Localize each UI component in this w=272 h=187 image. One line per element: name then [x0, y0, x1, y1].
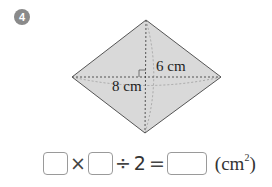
rhombus-shape	[72, 20, 221, 133]
equals-sign: =	[149, 154, 165, 173]
answer-blank-1[interactable]	[43, 152, 68, 175]
unit-close: )	[249, 153, 255, 174]
area-equation: × ÷ 2 = (cm2)	[43, 150, 256, 176]
unit-base: (cm	[215, 153, 245, 174]
label-6cm: 6 cm	[156, 58, 186, 74]
answer-blank-3[interactable]	[167, 152, 207, 175]
answer-blank-2[interactable]	[88, 152, 113, 175]
label-8cm: 8 cm	[112, 78, 142, 94]
divide-sign: ÷	[115, 154, 131, 173]
divisor: 2	[134, 154, 146, 173]
times-sign: ×	[70, 154, 86, 173]
unit-label: (cm2)	[215, 152, 256, 175]
